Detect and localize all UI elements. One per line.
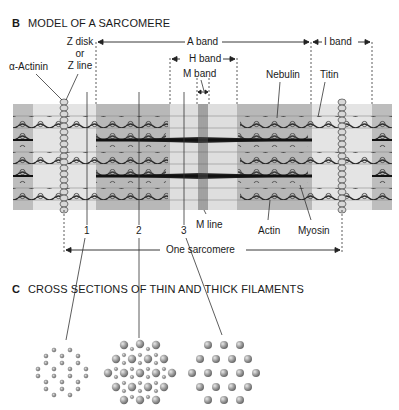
m-line-leader bbox=[204, 210, 206, 214]
section-2-label: 2 bbox=[136, 225, 142, 236]
z-disk-left bbox=[60, 99, 68, 213]
cross-section-1 bbox=[36, 348, 88, 397]
alpha-actinin-label: α-Actinin bbox=[9, 61, 48, 72]
z-line-text: Z line bbox=[65, 60, 95, 72]
z-disk-right bbox=[338, 99, 346, 213]
or-text: or bbox=[65, 48, 95, 60]
a-band-label: A band bbox=[187, 36, 218, 47]
titin-label: Titin bbox=[320, 69, 339, 80]
panel-c-letter: C bbox=[12, 283, 20, 295]
m-band-label: M band bbox=[183, 68, 216, 79]
section-1-label: 1 bbox=[84, 225, 90, 236]
actin-label: Actin bbox=[258, 225, 280, 236]
myosin-label: Myosin bbox=[298, 225, 330, 236]
z-disk-label: Z disk or Z line bbox=[65, 36, 95, 72]
cross-section-3 bbox=[188, 341, 260, 404]
z-line-leader bbox=[66, 74, 78, 100]
section-3-label: 3 bbox=[181, 225, 187, 236]
z-disk-text: Z disk bbox=[65, 36, 95, 48]
cross-section-2 bbox=[104, 340, 176, 404]
alpha-actinin-leader bbox=[36, 74, 62, 100]
h-band-label: H band bbox=[189, 53, 221, 64]
panel-c-title: CCROSS SECTIONS OF THIN AND THICK FILAME… bbox=[12, 283, 304, 295]
nebulin-label: Nebulin bbox=[266, 69, 300, 80]
m-line-label: M line bbox=[196, 219, 223, 230]
panel-c-title-text: CROSS SECTIONS OF THIN AND THICK FILAMEN… bbox=[28, 283, 304, 295]
one-sarcomere-label: One sarcomere bbox=[166, 244, 235, 255]
i-band-label: I band bbox=[324, 36, 352, 47]
